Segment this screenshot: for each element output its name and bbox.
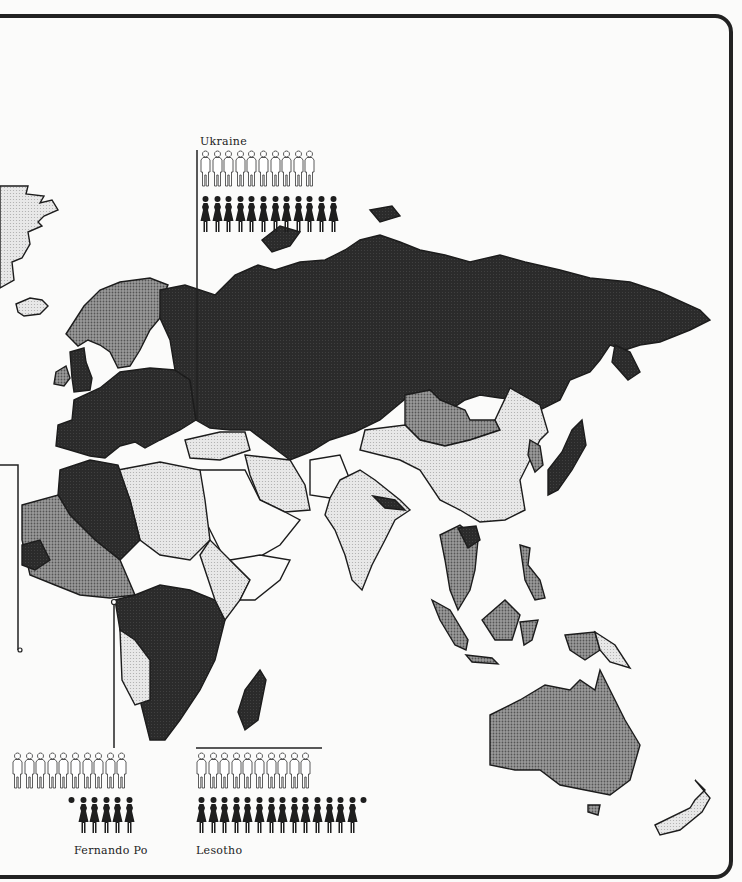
male-outline-icon (200, 150, 212, 188)
female-solid-icon (101, 796, 113, 834)
partial-female-icon (66, 796, 78, 834)
region-kamchatka (612, 345, 640, 380)
male-outline-icon (105, 752, 117, 790)
female-solid-icon (270, 195, 282, 233)
men-row-ukraine (200, 150, 316, 188)
female-solid-icon (231, 796, 243, 834)
region-korea (528, 440, 543, 472)
female-solid-icon (304, 195, 316, 233)
women-row-fernando-po (66, 796, 136, 834)
male-outline-icon (293, 150, 305, 188)
leader-west-africa-dot (18, 648, 22, 652)
female-solid-icon (112, 796, 124, 834)
region-philippines (520, 545, 545, 600)
male-outline-icon (235, 150, 247, 188)
region-arctic-islands (370, 206, 400, 222)
female-solid-icon (223, 195, 235, 233)
region-australia (490, 670, 640, 795)
female-solid-icon (312, 796, 324, 834)
men-row-lesotho (196, 752, 312, 790)
male-outline-icon (300, 752, 312, 790)
male-outline-icon (231, 752, 243, 790)
male-outline-icon (254, 752, 266, 790)
female-solid-icon (277, 796, 289, 834)
region-new-guinea (565, 632, 600, 660)
male-outline-icon (289, 752, 301, 790)
female-solid-icon (246, 195, 258, 233)
region-borneo (482, 600, 520, 640)
female-solid-icon (78, 796, 90, 834)
partial-female-icon (358, 796, 370, 834)
region-greenland (0, 186, 58, 288)
region-sulawesi (520, 620, 538, 645)
female-solid-icon (200, 195, 212, 233)
female-solid-icon (289, 796, 301, 834)
female-solid-icon (235, 195, 247, 233)
region-japan (548, 420, 586, 495)
female-solid-icon (347, 796, 359, 834)
male-outline-icon (266, 752, 278, 790)
female-solid-icon (212, 195, 224, 233)
callout-label-fernando-po: Fernando Po (74, 844, 148, 857)
male-outline-icon (12, 752, 24, 790)
region-ireland (54, 366, 70, 386)
male-outline-icon (24, 752, 36, 790)
male-outline-icon (304, 150, 316, 188)
female-solid-icon (335, 796, 347, 834)
leader-fernando-po-dot (112, 600, 117, 605)
world-map (0, 0, 742, 882)
male-outline-icon (277, 752, 289, 790)
male-outline-icon (246, 150, 258, 188)
callout-label-lesotho: Lesotho (196, 844, 242, 857)
women-row-lesotho (196, 796, 370, 834)
female-solid-icon (258, 195, 270, 233)
male-outline-icon (35, 752, 47, 790)
female-solid-icon (208, 796, 220, 834)
male-outline-icon (242, 752, 254, 790)
region-britain (70, 348, 92, 392)
male-outline-icon (58, 752, 70, 790)
region-tasmania (588, 805, 600, 815)
male-outline-icon (212, 150, 224, 188)
female-solid-icon (293, 195, 305, 233)
region-madagascar (238, 670, 266, 730)
male-outline-icon (70, 752, 82, 790)
female-solid-icon (328, 195, 340, 233)
male-outline-icon (116, 752, 128, 790)
male-outline-icon (258, 150, 270, 188)
region-new-zealand (655, 780, 710, 835)
male-outline-icon (270, 150, 282, 188)
men-row-fernando-po (12, 752, 128, 790)
women-row-ukraine (200, 195, 339, 233)
male-outline-icon (196, 752, 208, 790)
region-turkey (185, 432, 250, 460)
male-outline-icon (219, 752, 231, 790)
female-solid-icon (254, 796, 266, 834)
leader-west-africa (0, 465, 18, 650)
region-iceland (16, 298, 48, 316)
male-outline-icon (223, 150, 235, 188)
male-outline-icon (82, 752, 94, 790)
male-outline-icon (281, 150, 293, 188)
region-java (466, 655, 498, 664)
male-outline-icon (93, 752, 105, 790)
female-solid-icon (196, 796, 208, 834)
female-solid-icon (300, 796, 312, 834)
female-solid-icon (316, 195, 328, 233)
female-solid-icon (281, 195, 293, 233)
female-solid-icon (124, 796, 136, 834)
region-sumatra (432, 600, 468, 650)
callout-label-ukraine: Ukraine (200, 135, 247, 148)
male-outline-icon (208, 752, 220, 790)
region-papua (595, 632, 630, 668)
female-solid-icon (266, 796, 278, 834)
female-solid-icon (242, 796, 254, 834)
female-solid-icon (89, 796, 101, 834)
male-outline-icon (47, 752, 59, 790)
female-solid-icon (324, 796, 336, 834)
female-solid-icon (219, 796, 231, 834)
region-india (325, 470, 410, 590)
